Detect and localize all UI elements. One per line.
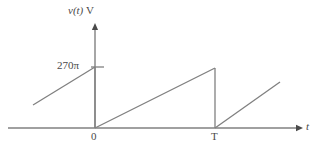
x-axis-label: t: [306, 121, 309, 132]
x-axis-arrow-icon: [296, 125, 303, 131]
x-tick-label-period: T: [211, 131, 218, 142]
y-axis-unit-label: V: [86, 4, 94, 16]
sawtooth-waveform-figure: v(t) V 270π t 0 T: [0, 0, 319, 152]
waveform-segment-previous-ramp: [33, 67, 95, 105]
x-tick-label-origin: 0: [91, 131, 97, 142]
y-axis-arrow-icon: [92, 23, 98, 30]
y-axis-label: v(t) V: [68, 5, 94, 16]
y-tick-label-270pi: 270π: [57, 60, 79, 71]
plot-canvas: [0, 0, 319, 152]
waveform-segment-main-ramp: [95, 68, 215, 128]
waveform-segment-next-ramp: [215, 82, 280, 128]
y-axis-variable-label: v(t): [68, 4, 83, 16]
